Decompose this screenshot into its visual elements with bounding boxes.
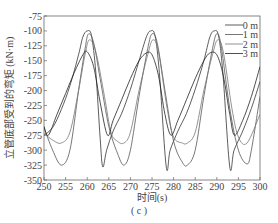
y-tick-label: -250 — [24, 115, 42, 126]
x-tick-label: 300 — [253, 181, 268, 192]
y-tick-label: -175 — [24, 70, 42, 81]
x-tick-label: 255 — [58, 181, 73, 192]
y-axis-label: 立管底部受到的弯矩 (kN·m) — [3, 37, 16, 160]
y-tick-label: -325 — [24, 160, 42, 171]
legend-label: 3 m — [243, 48, 259, 59]
figure-caption: ( c ) — [0, 205, 278, 216]
y-axis: -75-100-125-150-175-200-225-250-275-300-… — [24, 11, 47, 186]
x-tick-label: 260 — [80, 181, 95, 192]
x-tick-label: 250 — [37, 181, 52, 192]
y-tick-label: -300 — [24, 145, 42, 156]
x-tick-label: 270 — [123, 181, 138, 192]
y-tick-label: -100 — [24, 25, 42, 36]
x-tick-label: 280 — [166, 181, 181, 192]
y-tick-label: -125 — [24, 40, 42, 51]
y-tick-label: -225 — [24, 100, 42, 111]
y-tick-label: -150 — [24, 55, 42, 66]
chart: -75-100-125-150-175-200-225-250-275-300-… — [0, 0, 278, 223]
x-axis-label: 时间(s) — [137, 191, 168, 204]
y-tick-label: -200 — [24, 85, 42, 96]
y-tick-label: -275 — [24, 130, 42, 141]
x-tick-label: 275 — [145, 181, 160, 192]
y-tick-label: -75 — [29, 11, 42, 22]
x-tick-label: 290 — [209, 181, 224, 192]
x-tick-label: 265 — [101, 181, 116, 192]
x-tick-label: 285 — [188, 181, 203, 192]
x-tick-label: 295 — [231, 181, 246, 192]
